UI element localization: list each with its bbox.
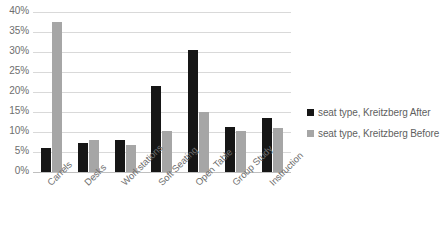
- y-axis-tick-label: 35%: [9, 25, 29, 36]
- y-axis-tick-label: 40%: [9, 5, 29, 16]
- y-axis-tick-label: 10%: [9, 125, 29, 136]
- legend-square-icon: [307, 130, 314, 137]
- bar-carrels-series-1: [41, 148, 51, 172]
- bar-chart: 0%5%10%15%20%25%30%35%40% CarrelsDesksWo…: [0, 0, 442, 244]
- gridline: [33, 92, 291, 93]
- legend-square-icon: [307, 109, 314, 116]
- gridline: [33, 72, 291, 73]
- gridline: [33, 112, 291, 113]
- legend-entry-label: seat type, Kreitzberg After: [318, 107, 430, 118]
- bar-open-table-series-2: [199, 112, 209, 172]
- gridline: [33, 32, 291, 33]
- y-axis-tick-label: 30%: [9, 45, 29, 56]
- y-axis-tick-label: 5%: [15, 145, 29, 156]
- bar-desks-series-1: [78, 143, 88, 172]
- legend-entry-2[interactable]: seat type, Kreitzberg Before: [307, 128, 439, 139]
- y-axis-tick-label: 0%: [15, 165, 29, 176]
- gridline: [33, 52, 291, 53]
- legend-entry-label: seat type, Kreitzberg Before: [318, 128, 439, 139]
- legend-entry-1[interactable]: seat type, Kreitzberg After: [307, 107, 430, 118]
- bar-workstations-series-1: [115, 140, 125, 172]
- y-axis-tick-label: 20%: [9, 85, 29, 96]
- bar-carrels-series-2: [52, 22, 62, 172]
- gridline: [33, 12, 291, 13]
- y-axis-tick-label: 25%: [9, 65, 29, 76]
- y-axis-tick-label: 15%: [9, 105, 29, 116]
